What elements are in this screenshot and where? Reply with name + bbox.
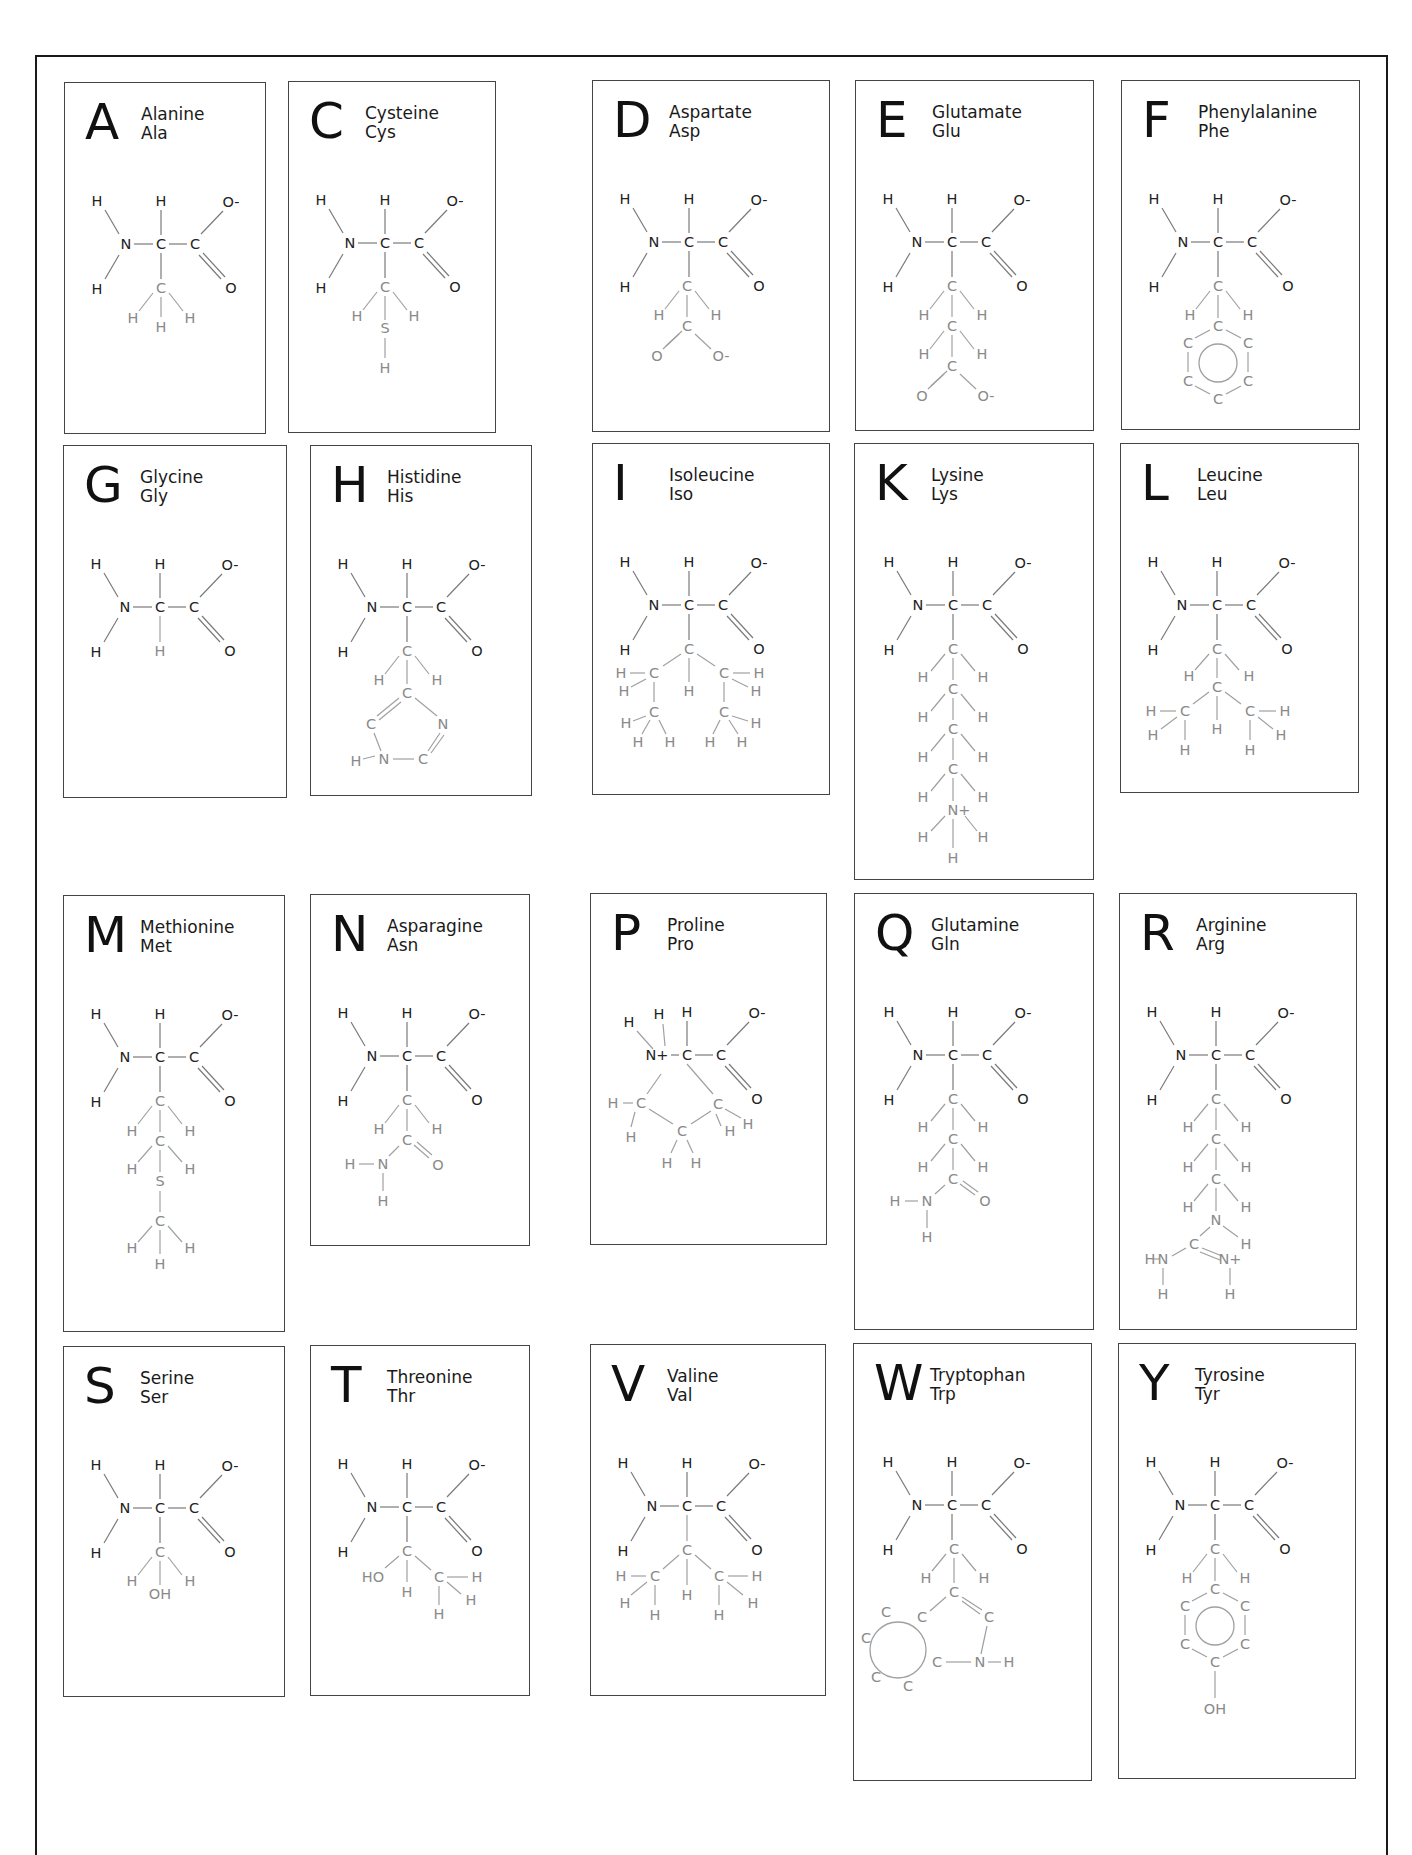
side-chain-atom: H: [705, 734, 716, 750]
backbone-c-carboxyl: C: [414, 235, 424, 251]
bond-line: [687, 1140, 693, 1153]
bond-line: [1256, 1022, 1278, 1045]
side-chain-atom: H: [185, 1240, 196, 1256]
bond-line: [725, 1066, 747, 1090]
backbone-o-minus: O-: [1279, 192, 1296, 208]
side-chain-atom: C: [1189, 1236, 1199, 1252]
bond-line: [1160, 1021, 1174, 1045]
amino-acid-card-c: CCysteineCysHHNHCCO-OCHHSH: [288, 81, 496, 433]
backbone-o-minus: O-: [446, 193, 463, 209]
side-chain-atom: H: [919, 346, 930, 362]
bond-line: [961, 654, 975, 671]
bond-line: [363, 756, 375, 759]
structural-formula: HHNHCCO-OCHHCOO-: [593, 81, 831, 433]
bond-line: [663, 1555, 679, 1569]
side-chain-atom: H: [918, 749, 929, 765]
bond-line: [1256, 253, 1278, 277]
bond-line: [931, 734, 945, 751]
bond-line: [729, 720, 738, 734]
side-chain-atom: H: [409, 308, 420, 324]
side-chain-atom: H: [665, 734, 676, 750]
structural-formula: HHNHCCO-OCCHHHHCHHH: [591, 1345, 827, 1697]
backbone-h-alpha: H: [1211, 1004, 1222, 1020]
backbone-o: O: [1280, 1091, 1291, 1107]
side-chain-atom: C: [861, 1630, 871, 1646]
bond-line: [198, 1068, 220, 1092]
bond-line: [425, 210, 447, 233]
side-chain-atom: N+: [1219, 1251, 1242, 1267]
bond-line: [695, 291, 709, 309]
side-chain-atom: C: [402, 685, 412, 701]
bond-line: [663, 654, 681, 666]
backbone-o: O: [1282, 278, 1293, 294]
bond-line: [729, 572, 751, 595]
amino-acid-card-a: AAlanineAlaHHNHCCO-OCHHH: [64, 82, 266, 434]
backbone-c-alpha: C: [684, 597, 694, 613]
amino-acid-card-h: HHistidineHisHHNHCCO-OCHHCCNHNC: [310, 445, 532, 796]
backbone-h-alpha: H: [155, 1006, 166, 1022]
side-chain-atom: C: [719, 704, 729, 720]
amino-acid-card-l: LLeucineLeuHHNHCCO-OCHHCCHHHHCHHH: [1120, 443, 1359, 793]
side-chain-atom: O-: [977, 388, 994, 404]
bond-line: [930, 291, 944, 309]
side-chain-atom: H: [374, 672, 385, 688]
bond-line: [897, 1021, 911, 1045]
side-chain-atom: C: [1211, 1131, 1221, 1147]
side-chain-atom: C: [155, 1544, 165, 1560]
side-chain-atom: C: [1213, 318, 1223, 334]
side-chain-atom: H: [351, 753, 362, 769]
bond-line: [961, 734, 975, 751]
bond-line: [1225, 692, 1241, 704]
side-chain-atom: N: [378, 1156, 389, 1172]
backbone-o-minus: O-: [221, 1458, 238, 1474]
bond-line: [199, 255, 221, 279]
side-chain-atom: C: [948, 1091, 958, 1107]
side-chain-atom: H: [1182, 1570, 1193, 1586]
side-chain-atom: C: [1183, 335, 1193, 351]
backbone-c-carboxyl: C: [436, 1048, 446, 1064]
structural-formula: HHNHCCO-OCHHCHHCHNHO: [855, 894, 1095, 1331]
bond-line: [1194, 1144, 1208, 1161]
side-chain-atom: H: [1212, 721, 1223, 737]
bond-line: [931, 816, 945, 831]
bond-line: [200, 574, 222, 597]
bond-line: [415, 656, 429, 674]
side-chain-atom: C: [155, 1133, 165, 1149]
bond-line: [169, 293, 183, 311]
bond-line: [447, 1474, 469, 1497]
side-chain-atom: H: [1180, 742, 1191, 758]
side-chain-atom: H: [919, 307, 930, 323]
backbone-h-alpha: H: [402, 1456, 413, 1472]
side-chain-atom: H: [633, 734, 644, 750]
bond-line: [931, 694, 945, 711]
side-chain-atom: H: [1145, 1251, 1156, 1267]
backbone-o: O: [753, 278, 764, 294]
backbone-n: N: [120, 1049, 131, 1065]
bond-line: [731, 614, 753, 638]
structural-formula: HHNHCCO-OCHHCCCCCCCCNH: [854, 1344, 1093, 1782]
bond-line: [415, 1105, 429, 1123]
backbone-o: O: [225, 280, 236, 296]
side-chain-atom: H: [616, 1568, 627, 1584]
side-chain-atom: C: [1212, 679, 1222, 695]
bond-line: [961, 774, 975, 791]
bond-line: [1255, 1472, 1277, 1495]
side-chain-atom: C: [1210, 1541, 1220, 1557]
bond-line: [931, 1104, 945, 1121]
backbone-n: N: [649, 597, 660, 613]
amino-acid-card-w: WTryptophanTrpHHNHCCO-OCHHCCCCCCCCNH: [853, 1343, 1092, 1781]
backbone-o: O: [471, 1543, 482, 1559]
side-chain-atom: H: [1148, 727, 1159, 743]
backbone-h: H: [884, 1004, 895, 1020]
backbone-o: O: [751, 1542, 762, 1558]
side-chain-atom: C: [1211, 1171, 1221, 1187]
side-chain-atom: H: [127, 1161, 138, 1177]
structural-formula: HHNHCCO-OCHHCCCCCCOH: [1119, 1344, 1357, 1780]
structural-formula: HHNHCCO-OCHHCCCCCC: [1122, 81, 1361, 431]
backbone-o: O: [1281, 641, 1292, 657]
side-chain-atom: C: [932, 1654, 942, 1670]
backbone-c-carboxyl: C: [1247, 234, 1257, 250]
bond-line: [732, 679, 748, 687]
backbone-c-carboxyl: C: [436, 1499, 446, 1515]
bond-line: [351, 618, 365, 642]
